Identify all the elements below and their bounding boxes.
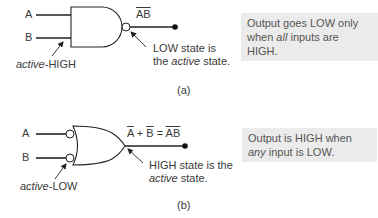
arrow-icon [55,164,66,179]
inversion-bubble-icon [66,154,74,162]
caption-a: (a) [177,84,190,97]
and-gate-body [71,7,122,47]
active-high-annotation: active-HIGH [16,58,76,71]
note-box: Output goes LOW only when all inputs are… [241,13,378,61]
input-b-label: B [25,31,32,44]
arrow-icon [128,149,143,163]
or-gate-body [73,126,125,165]
arrow-icon [52,42,63,56]
inversion-bubble-icon [122,23,130,31]
output-annotation: LOW state is the active state. [153,42,230,68]
note-box: Output is HIGH when any input is LOW. [242,128,377,162]
output-equation: A + B = AB [127,127,180,140]
input-a-label: A [25,8,32,21]
output-annotation: HIGH state is the active state. [149,159,233,185]
output-terminal-dot [182,143,188,149]
output-label: AB [136,8,151,21]
input-a-label: A [22,127,29,140]
input-b-label: B [22,151,29,164]
caption-b: (b) [177,199,190,212]
inversion-bubble-icon [66,130,74,138]
output-terminal-dot [172,24,178,30]
active-low-annotation: active-LOW [20,180,77,193]
arrow-icon [131,32,146,47]
